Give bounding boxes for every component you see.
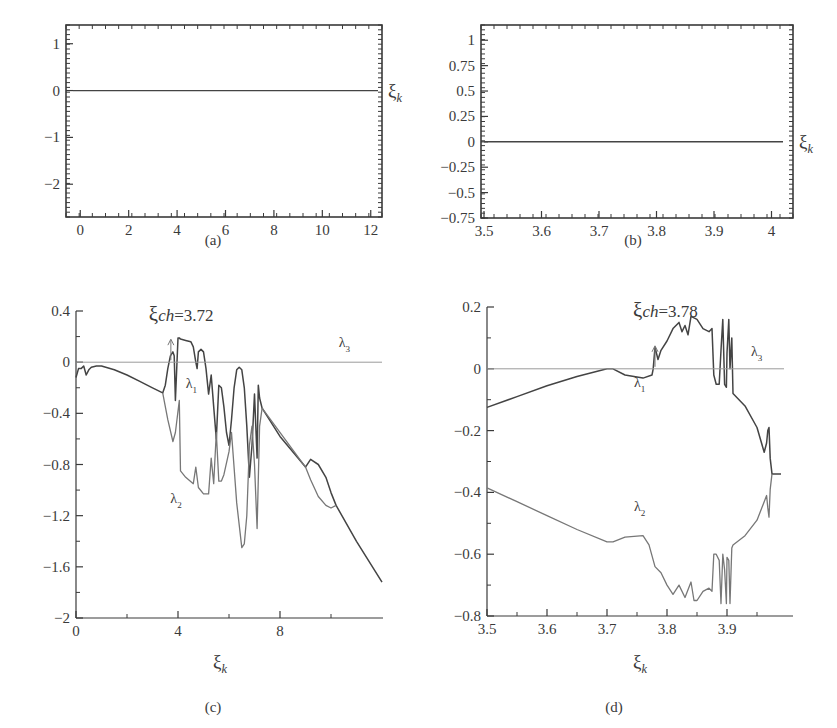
y-tick-label: 1 [53, 36, 61, 52]
y-tick-label: −0.75 [440, 210, 475, 226]
x-tick-label: 0 [72, 623, 80, 639]
panel-b-plot: 10.750.50.250−0.25−0.5−0.753.53.63.73.83… [440, 25, 813, 249]
x-tick-label: 3.5 [475, 223, 494, 239]
critical-point-label: ξch=3.72 [149, 302, 214, 326]
y-tick-label: −1 [44, 129, 60, 145]
series-lambda-1-line [487, 316, 781, 474]
series-label-λ2: λ2 [170, 491, 182, 510]
series-label-λ3: λ3 [751, 344, 763, 363]
x-axis-label: ξk [633, 651, 647, 676]
x-tick-label: 4 [174, 623, 182, 639]
figure: 10−1−2024681012ξk(a) 10.750.50.250−0.25−… [0, 0, 837, 728]
x-tick-label: 8 [276, 623, 284, 639]
y-tick-label: 0.25 [449, 108, 475, 124]
x-tick-label: 4 [173, 222, 181, 238]
y-tick-label: 0.5 [456, 83, 475, 99]
y-tick-label: 0 [474, 361, 482, 377]
panel-caption: (a) [205, 232, 222, 249]
panel-d-plot: 0.20−0.2−0.4−0.6−0.83.53.63.73.83.9ξkξch… [454, 298, 793, 716]
x-tick-label: 3.7 [590, 223, 609, 239]
x-tick-label: 6 [222, 222, 230, 238]
x-tick-label: 3.9 [705, 223, 724, 239]
x-tick-label: 0 [77, 222, 85, 238]
y-tick-label: −2 [44, 176, 60, 192]
plot-frame [66, 25, 382, 217]
series-label-λ2: λ2 [634, 499, 646, 518]
right-axis-label: ξk [799, 131, 813, 156]
x-tick-label: 8 [270, 222, 278, 238]
panel-a-plot: 10−1−2024681012ξk(a) [44, 25, 402, 249]
y-tick-label: −0.5 [448, 185, 475, 201]
y-tick-label: −0.4 [454, 484, 482, 500]
x-tick-label: 12 [363, 222, 378, 238]
y-tick-label: 0.4 [51, 303, 70, 319]
series-lambda-1-line [76, 338, 382, 582]
y-tick-label: 0 [53, 83, 61, 99]
y-tick-label: −0.4 [43, 405, 71, 421]
series-label-λ3: λ3 [339, 335, 351, 354]
y-tick-label: −0.8 [43, 457, 70, 473]
series-lambda-2-line [487, 474, 772, 604]
panel-caption: (b) [624, 232, 642, 249]
y-tick-label: −0.2 [454, 423, 481, 439]
critical-point-label: ξch=3.78 [633, 298, 698, 322]
panel-caption: (c) [205, 699, 222, 716]
y-tick-label: 1 [468, 32, 476, 48]
plot-frame [481, 25, 793, 218]
x-tick-label: 3.9 [718, 621, 737, 637]
x-tick-label: 3.6 [538, 621, 557, 637]
y-tick-label: 0 [63, 354, 71, 370]
series-label-λ1: λ1 [186, 376, 197, 395]
y-tick-label: 0 [468, 134, 476, 150]
y-tick-label: −1.2 [43, 508, 70, 524]
right-axis-label: ξk [388, 80, 402, 105]
x-tick-label: 3.8 [647, 223, 666, 239]
y-tick-label: −1.6 [43, 559, 71, 575]
y-tick-label: 0.2 [462, 299, 481, 315]
x-tick-label: 4 [768, 223, 776, 239]
x-tick-label: 3.5 [478, 621, 497, 637]
panel-caption: (d) [605, 699, 623, 716]
y-tick-label: 0.75 [449, 58, 475, 74]
x-tick-label: 3.6 [532, 223, 551, 239]
panel-c-plot: 0.40−0.4−0.8−1.2−1.6−2048ξkξch=3.72λ1λ2λ… [43, 302, 383, 716]
x-axis-label: ξk [213, 651, 227, 676]
y-tick-label: −2 [54, 610, 70, 626]
x-tick-label: 2 [125, 222, 133, 238]
x-tick-label: 3.7 [598, 621, 617, 637]
y-tick-label: −0.25 [440, 159, 475, 175]
y-tick-label: −0.6 [454, 546, 482, 562]
x-tick-label: 10 [315, 222, 330, 238]
x-tick-label: 3.8 [658, 621, 677, 637]
